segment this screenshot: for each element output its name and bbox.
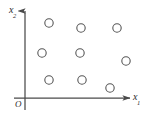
data-point bbox=[122, 57, 130, 65]
data-point bbox=[76, 49, 84, 57]
x-axis-label-subscript: 1 bbox=[137, 99, 140, 106]
data-point bbox=[45, 19, 53, 27]
data-point bbox=[45, 76, 53, 84]
data-points-group bbox=[38, 19, 130, 92]
coordinate-scatter-figure: x2 x1 O bbox=[0, 0, 149, 118]
data-point bbox=[78, 76, 86, 84]
axes-group bbox=[14, 11, 130, 110]
origin-label: O bbox=[15, 100, 22, 109]
data-point bbox=[77, 24, 85, 32]
y-axis-label: x2 bbox=[9, 5, 17, 18]
y-axis-label-subscript: 2 bbox=[13, 12, 16, 19]
data-point bbox=[106, 84, 114, 92]
plot-canvas bbox=[0, 0, 149, 118]
x-axis-label: x1 bbox=[133, 92, 141, 105]
data-point bbox=[113, 24, 121, 32]
data-point bbox=[38, 49, 46, 57]
